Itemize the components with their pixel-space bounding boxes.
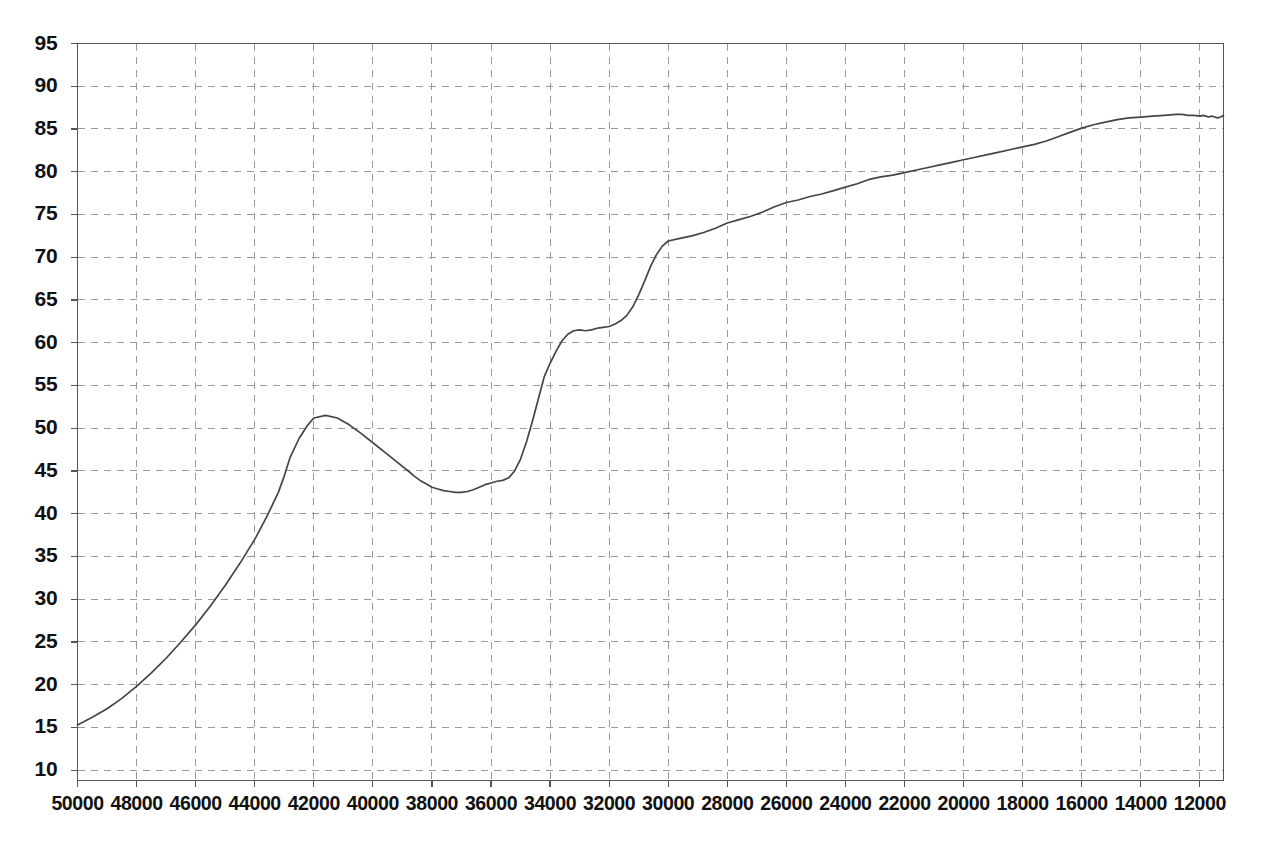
y-tick-label: 95	[0, 31, 58, 55]
line-chart-plot	[0, 0, 1261, 855]
x-axis-ticks	[78, 781, 1200, 787]
y-tick-label: 70	[0, 244, 58, 268]
y-tick-label: 35	[0, 543, 58, 567]
y-tick-label: 20	[0, 672, 58, 696]
y-tick-label: 50	[0, 415, 58, 439]
vertical-gridlines	[78, 44, 1200, 781]
horizontal-gridlines	[78, 86, 1224, 770]
y-tick-label: 75	[0, 201, 58, 225]
y-tick-label: 65	[0, 287, 58, 311]
y-tick-label: 60	[0, 330, 58, 354]
y-tick-label: 40	[0, 501, 58, 525]
y-tick-label: 10	[0, 757, 58, 781]
y-tick-label: 30	[0, 586, 58, 610]
data-series-line	[78, 114, 1224, 724]
y-tick-label: 45	[0, 458, 58, 482]
y-tick-label: 15	[0, 714, 58, 738]
plot-axes	[78, 44, 1224, 781]
y-tick-label: 55	[0, 372, 58, 396]
y-tick-label: 80	[0, 159, 58, 183]
chart-container: 101520253035404550556065707580859095 500…	[0, 0, 1261, 855]
y-axis-ticks	[71, 44, 78, 771]
y-tick-label: 25	[0, 629, 58, 653]
x-tick-label: 12000	[1155, 792, 1245, 815]
y-tick-label: 85	[0, 116, 58, 140]
y-tick-label: 90	[0, 73, 58, 97]
